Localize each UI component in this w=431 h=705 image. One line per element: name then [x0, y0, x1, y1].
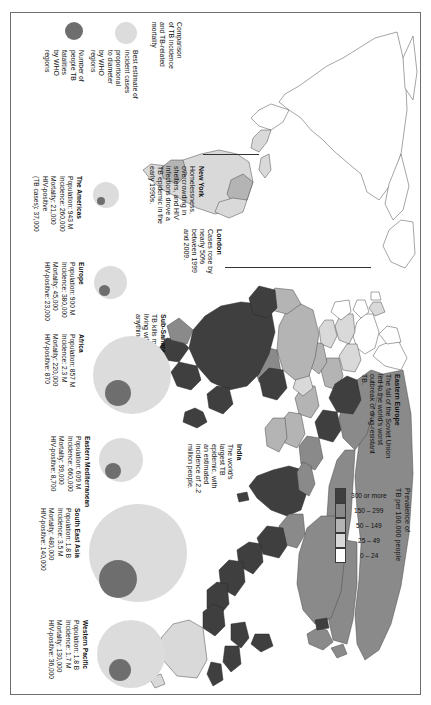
annotation-india-body: The world's largest TB epidemic, with an… [186, 444, 235, 496]
region-hiv-africa: HIV-positive: 870 [42, 334, 51, 387]
legend-class-3: 25 – 49 [335, 533, 391, 548]
region-hiv-south-east-asia: HIV-positive: 140,000 [38, 508, 47, 571]
bubble-label-the-americas: The Americas Population: 943 M Incidence… [32, 176, 83, 232]
region-hiv-western-pacific: HIV-positive: 36,000 [46, 620, 55, 679]
region-incidence-western-pacific: Incidence: 1.7 M [63, 620, 72, 679]
annotation-india-title: India [235, 444, 243, 496]
region-hiv-cases-the-americas: (TB cases): 37,000 [32, 176, 41, 232]
bubble-mortality-africa [105, 380, 131, 406]
region-name-the-americas: The Americas [74, 176, 83, 232]
key-incidence-line4: to diameter [107, 50, 114, 84]
bubble-mortality-south-east-asia [99, 560, 137, 598]
prevalence-legend-title-line2: TB per 100,000 people [394, 488, 403, 561]
key-fatalities-swatch [65, 22, 83, 40]
key-incidence-line1: Best estimate of [132, 50, 139, 99]
annotation-new-york-body: Homelessness, overcrowding in shelters, … [148, 166, 197, 224]
region-mortality-europe: Mortality: 45,000 [51, 262, 60, 321]
key-fatalities-text: Number of people TB fatalities by WHO re… [43, 50, 85, 160]
key-incidence-line6: regions [90, 50, 97, 72]
region-mortality-africa: Mortality: 220,000 [51, 334, 60, 387]
legend-class-2: 50 – 149 [335, 518, 391, 533]
bubble-incidence-the-americas [93, 182, 119, 208]
key-incidence-text: Best estimate of incident cases proporti… [88, 50, 139, 160]
figure-page: .c0{fill:#ffffff;stroke:#4a4a4a;stroke-w… [0, 0, 431, 705]
key-heading-line4: mortality [151, 22, 158, 48]
region-population-africa: Population: 857 M [68, 334, 77, 387]
bubble-incidence-africa [93, 336, 171, 414]
bubble-label-eastern-mediterranean: Eastern Mediterranean Population: 609 M … [48, 436, 91, 507]
region-population-eastern-mediterranean: Population: 609 M [74, 436, 83, 507]
annotation-new-york: New York Homelessness, overcrowding in s… [148, 166, 205, 224]
region-mortality-south-east-asia: Mortality: 480,000 [47, 508, 56, 571]
prevalence-legend-title-line1: Prevalence of [403, 488, 412, 532]
annotation-london-body: Cases rose by nearly 50% between 1999 an… [182, 229, 214, 283]
region-incidence-the-americas: Incidence: 260,000 [57, 176, 66, 232]
key-fatalities-line4: by WHO [53, 50, 60, 76]
key-incidence-line5: by WHO [98, 50, 105, 76]
prevalence-legend: Prevalence of TB per 100,000 people 300 … [335, 488, 411, 608]
legend-class-0-label: 300 or more [347, 492, 391, 499]
legend-class-4: 0 – 24 [335, 548, 391, 563]
annotation-india: India The world's largest TB epidemic, w… [186, 444, 243, 496]
region-name-eastern-mediterranean: Eastern Mediterranean [82, 436, 91, 507]
region-population-south-east-asia: Population: 1.8 B [64, 508, 73, 571]
bubble-incidence-western-pacific [97, 620, 165, 688]
region-name-western-pacific: Western Pacific [80, 620, 89, 679]
bubble-label-western-pacific: Western Pacific Population: 1.8 B Incide… [46, 620, 89, 679]
rotated-canvas: .c0{fill:#ffffff;stroke:#4a4a4a;stroke-w… [12, 14, 419, 693]
region-incidence-south-east-asia: Incidence: 3.5 M [55, 508, 64, 571]
legend-class-1-swatch [335, 503, 346, 518]
region-incidence-europe: Incidence: 380,000 [59, 262, 68, 321]
leader-line-new-york [203, 154, 259, 155]
key-incidence-swatch [115, 22, 137, 44]
bubble-mortality-the-americas [97, 197, 105, 205]
region-name-africa: Africa [76, 334, 85, 387]
bubble-label-africa: Africa Population: 857 M Incidence: 2.3 … [42, 334, 85, 387]
annotation-eastern-europe-title: Eastern Europe [393, 374, 401, 464]
annotation-eastern-europe-body: The fall of the Soviet Union led to the … [360, 374, 392, 464]
region-mortality-the-americas: Mortality: 21,000 [49, 176, 58, 232]
legend-class-4-swatch [335, 548, 346, 563]
bubble-label-europe: Europe Population: 900 M Incidence: 380,… [42, 262, 85, 321]
chart-key: Comparison of TB incidence and TB-relate… [38, 22, 183, 172]
region-hiv-europe: HIV-positive: 23,000 [42, 262, 51, 321]
key-heading-line2: of TB incidence [168, 22, 175, 69]
key-fatalities-line5: regions [44, 50, 51, 72]
legend-class-3-label: 25 – 49 [347, 537, 391, 544]
region-population-the-americas: Population: 943 M [66, 176, 75, 232]
key-incidence: Best estimate of incident cases proporti… [93, 22, 139, 172]
legend-class-0: 300 or more [335, 488, 391, 503]
key-fatalities: Number of people TB fatalities by WHO re… [45, 22, 85, 172]
annotation-london-title: London [215, 229, 223, 283]
key-heading-text: Comparison of TB incidence and TB-relate… [149, 22, 183, 172]
region-population-western-pacific: Population: 1.8 B [72, 620, 81, 679]
region-incidence-eastern-mediterranean: Incidence: 660,000 [65, 436, 74, 507]
prevalence-legend-title: Prevalence of TB per 100,000 people [394, 488, 411, 608]
bubble-incidence-europe [94, 266, 127, 299]
key-incidence-line2: incident cases [124, 50, 131, 93]
legend-class-1-label: 150 – 299 [347, 507, 391, 514]
key-heading: Comparison of TB incidence and TB-relate… [149, 22, 183, 172]
legend-class-2-label: 50 – 149 [347, 522, 391, 529]
region-name-south-east-asia: South East Asia [72, 508, 81, 571]
bubble-mortality-europe [99, 285, 110, 296]
key-incidence-line3: proportional [115, 50, 122, 86]
legend-class-0-swatch [335, 488, 346, 503]
region-mortality-eastern-mediterranean: Mortality: 99,000 [57, 436, 66, 507]
key-heading-line3: and TB-related [159, 22, 166, 67]
region-incidence-africa: Incidence: 2.3 M [59, 334, 68, 387]
annotation-eastern-europe: Eastern Europe The fall of the Soviet Un… [360, 374, 401, 464]
region-hiv-eastern-mediterranean: HIV-positive: 8,700 [48, 436, 57, 507]
annotation-new-york-title: New York [197, 166, 205, 224]
region-hiv-the-americas: HIV-positive [40, 176, 49, 232]
legend-class-4-label: 0 – 24 [347, 552, 391, 559]
legend-class-3-swatch [335, 533, 346, 548]
key-fatalities-line3: fatalities [61, 50, 68, 75]
key-fatalities-line2: people TB [70, 50, 77, 81]
region-name-europe: Europe [76, 262, 85, 321]
bubble-mortality-western-pacific [109, 659, 131, 681]
legend-class-1: 150 – 299 [335, 503, 391, 518]
region-population-europe: Population: 900 M [68, 262, 77, 321]
figure-frame: .c0{fill:#ffffff;stroke:#4a4a4a;stroke-w… [10, 12, 421, 695]
annotation-london: London Cases rose by nearly 50% between … [182, 229, 223, 283]
